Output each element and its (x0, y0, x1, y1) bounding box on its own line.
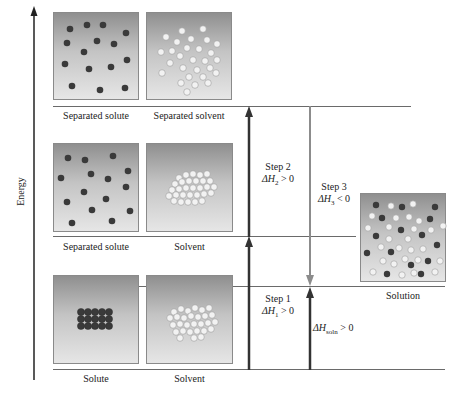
step3-label: Step 3 ΔH3 < 0 (309, 181, 359, 209)
label-separated-solute-middle: Separated solute (53, 241, 139, 252)
step3-enthalpy: ΔH3 < 0 (309, 193, 359, 209)
label-solvent-middle: Solvent (146, 241, 233, 252)
energy-axis-label: Energy (15, 177, 26, 207)
delta-h-soln-label: ΔHsoln > 0 (313, 322, 373, 338)
separated-solvent-box-top (146, 12, 232, 100)
step1-enthalpy: ΔH1 > 0 (253, 305, 303, 321)
level-line-top (53, 106, 411, 107)
label-solution: Solution (360, 290, 446, 301)
label-solvent-bottom: Solvent (146, 373, 233, 384)
solvent-cluster-icon (147, 276, 234, 365)
solute-particles-icon (54, 13, 140, 101)
solute-box-bottom (53, 275, 139, 364)
step1-label: Step 1 ΔH1 > 0 (253, 293, 303, 321)
label-separated-solvent-top: Separated solvent (146, 110, 232, 121)
separated-solute-box-top (53, 12, 139, 100)
delta-h-soln-enthalpy: ΔHsoln > 0 (313, 322, 373, 338)
solvent-cluster-icon (147, 144, 234, 233)
step2-label: Step 2 ΔH2 > 0 (253, 161, 303, 189)
solvent-box-middle (146, 143, 233, 232)
step2-title: Step 2 (253, 161, 303, 173)
label-solute-bottom: Solute (53, 373, 139, 384)
step1-title: Step 1 (253, 293, 303, 305)
separated-solute-box-middle (53, 143, 139, 232)
solvent-box-bottom (146, 275, 233, 364)
solute-particles-icon (54, 144, 140, 233)
solute-lattice-icon (54, 276, 140, 365)
solution-box (360, 193, 446, 282)
solvent-particles-icon (147, 13, 233, 101)
label-separated-solute-top: Separated solute (53, 110, 139, 121)
step2-enthalpy: ΔH2 > 0 (253, 173, 303, 189)
step3-title: Step 3 (309, 181, 359, 193)
energy-axis (28, 6, 42, 382)
solution-particles-icon (361, 194, 447, 283)
